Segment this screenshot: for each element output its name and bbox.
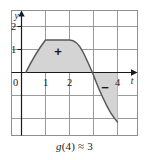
caption-argument: (4) bbox=[62, 140, 75, 152]
positive-region-sign: + bbox=[54, 44, 62, 59]
y-axis-label: y bbox=[13, 11, 19, 21]
plot-area: y t 0 1 2 1 2 4 + − bbox=[11, 10, 138, 136]
figure-container: y t 0 1 2 1 2 4 + − g(4) ≈ 3 bbox=[0, 0, 149, 160]
graph-svg: y t 0 1 2 1 2 4 + − bbox=[11, 10, 138, 136]
x-axis-label: t bbox=[131, 76, 134, 86]
x-tick-label-4: 4 bbox=[115, 77, 121, 88]
x-tick-label-1: 1 bbox=[43, 77, 48, 88]
figure-caption: g(4) ≈ 3 bbox=[0, 140, 149, 152]
y-tick-label-1: 1 bbox=[11, 44, 16, 55]
caption-relation: ≈ 3 bbox=[75, 140, 93, 152]
negative-region-sign: − bbox=[101, 80, 109, 95]
origin-label: 0 bbox=[13, 77, 18, 88]
x-tick-label-2: 2 bbox=[67, 77, 72, 88]
y-tick-label-2: 2 bbox=[11, 21, 16, 32]
